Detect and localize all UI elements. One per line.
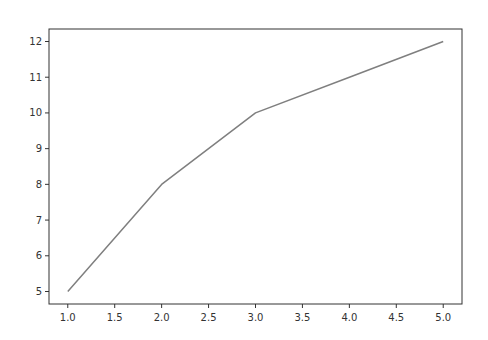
x-tick-label: 4.5 (388, 312, 404, 323)
x-tick-label: 3.0 (248, 312, 264, 323)
x-axis: 1.01.52.02.53.03.54.04.55.0 (60, 304, 451, 323)
y-tick-label: 7 (36, 215, 42, 226)
x-tick-label: 2.5 (201, 312, 217, 323)
chart-canvas: 56789101112 1.01.52.02.53.03.54.04.55.0 (0, 0, 488, 340)
y-axis: 56789101112 (29, 36, 49, 297)
x-tick-label: 5.0 (435, 312, 451, 323)
plot-area-frame (49, 29, 462, 304)
x-tick-label: 3.5 (294, 312, 310, 323)
data-series-line (68, 42, 443, 292)
y-tick-label: 8 (36, 179, 42, 190)
x-tick-label: 2.0 (154, 312, 170, 323)
y-tick-label: 5 (36, 286, 42, 297)
y-tick-label: 6 (36, 250, 42, 261)
x-tick-label: 4.0 (341, 312, 357, 323)
y-tick-label: 10 (29, 107, 42, 118)
x-tick-label: 1.0 (60, 312, 76, 323)
y-tick-label: 9 (36, 143, 42, 154)
x-tick-label: 1.5 (107, 312, 123, 323)
y-tick-label: 11 (29, 72, 42, 83)
line-chart: 56789101112 1.01.52.02.53.03.54.04.55.0 (0, 0, 488, 340)
y-tick-label: 12 (29, 36, 42, 47)
